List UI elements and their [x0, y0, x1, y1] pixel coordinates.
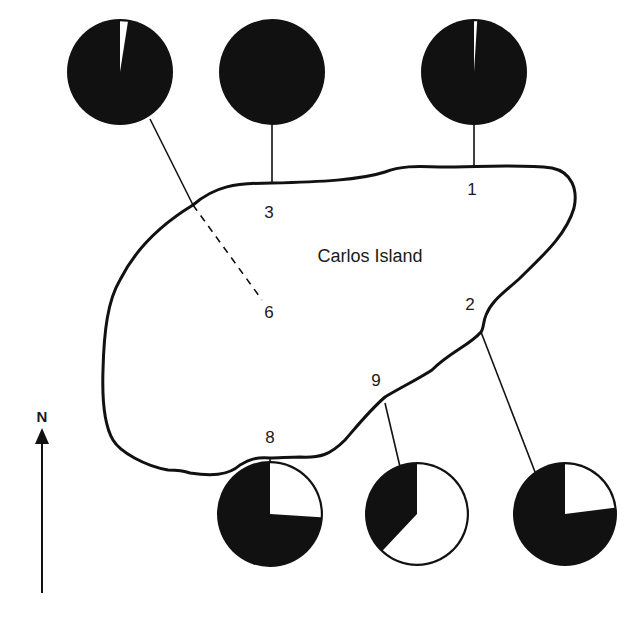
island-coastline: [103, 166, 575, 475]
pie-chart-station-9: [365, 462, 469, 566]
pie-chart-station-3: [219, 19, 325, 125]
pie-chart-station-8: [217, 461, 323, 567]
pie-white-slice: [270, 463, 321, 517]
connector-station-6: [150, 119, 193, 205]
north-arrow-icon: [35, 428, 49, 593]
pie-charts: [67, 19, 617, 567]
pie-chart-station-6: [67, 19, 173, 125]
station-label-2: 2: [465, 296, 474, 313]
station-label-3: 3: [264, 204, 273, 221]
pie-chart-station-1: [421, 19, 527, 125]
station-label-1: 1: [467, 181, 476, 198]
connector-station-6-dashed: [193, 205, 262, 300]
connector-station-2: [481, 332, 542, 490]
pie-white-slice: [565, 464, 614, 514]
island-name-label: Carlos Island: [317, 247, 422, 265]
station-label-8: 8: [265, 429, 274, 446]
station-label-6: 6: [264, 304, 273, 321]
station-label-9: 9: [371, 372, 380, 389]
island-map: [0, 0, 643, 632]
pie-chart-station-2: [513, 462, 617, 566]
north-label: N: [37, 409, 48, 424]
